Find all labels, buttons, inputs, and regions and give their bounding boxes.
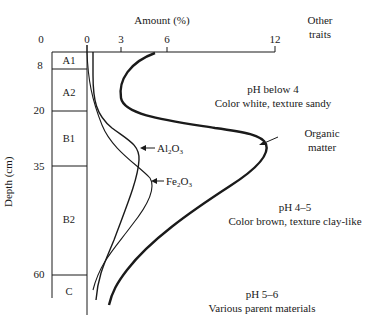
soil-profile-chart: Amount (%) Other traits 0 3 6 12 0 8 20 … (0, 0, 380, 329)
horizon-a1: A1 (63, 55, 76, 67)
x-tick-label-12: 12 (270, 33, 281, 45)
trait-c-ph: pH 5–6 (246, 288, 279, 300)
horizon-b2: B2 (63, 214, 75, 226)
x-axis-title: Amount (%) (134, 14, 189, 26)
x-tick-label-0: 0 (84, 33, 90, 45)
al2o3-arrowhead (140, 145, 146, 151)
depth-label-0: 0 (38, 33, 44, 45)
trait-a-desc: Color white, texture sandy (215, 97, 332, 109)
horizon-b1: B1 (63, 133, 75, 145)
depth-label-60: 60 (34, 268, 45, 280)
other-traits-title-line1: Other (307, 14, 332, 26)
depth-label-35: 35 (34, 160, 45, 172)
trait-b-desc: Color brown, texture clay-like (228, 215, 361, 227)
organic-matter-label-line2: matter (308, 141, 336, 153)
horizon-c: C (65, 286, 72, 298)
chart-canvas (0, 0, 380, 329)
trait-b-ph: pH 4–5 (279, 201, 312, 213)
y-axis-title: Depth (cm) (2, 157, 14, 207)
x-tick-label-3: 3 (118, 33, 124, 45)
organic-matter-label-line1: Organic (304, 127, 339, 139)
depth-label-20: 20 (34, 104, 45, 116)
horizon-a2: A2 (63, 87, 76, 99)
al2o3-label: Al2O3 (157, 142, 183, 158)
trait-c-desc: Various parent materials (209, 302, 316, 314)
fe2o3-label: Fe2O3 (166, 175, 192, 191)
other-traits-title-line2: traits (309, 28, 331, 40)
x-tick-label-6: 6 (164, 33, 170, 45)
trait-a-ph: pH below 4 (247, 83, 298, 95)
depth-label-8: 8 (37, 59, 43, 71)
